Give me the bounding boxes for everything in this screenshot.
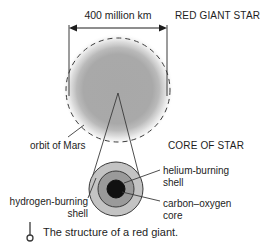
helium-burning-shell-label-line1: helium-burning (163, 165, 229, 177)
red-giant-star-disc (62, 33, 174, 145)
caption-marker-icon (27, 222, 33, 241)
core-of-star-label: CORE OF STAR (168, 140, 244, 152)
carbon-oxygen-core-label-line2: core (163, 210, 231, 222)
diameter-label: 400 million km (70, 9, 166, 21)
core-cross-section (89, 162, 143, 216)
figure-caption: The structure of a red giant. (43, 226, 178, 239)
red-giant-star-label: RED GIANT STAR (175, 10, 260, 22)
helium-burning-shell-label: helium-burning shell (163, 165, 229, 189)
red-giant-structure-figure: 400 million km RED GIANT STAR orbit of M… (0, 0, 260, 245)
carbon-oxygen-core-label-line1: carbon–oxygen (163, 198, 231, 210)
carbon-oxygen-core-label: carbon–oxygen core (163, 198, 231, 222)
orbit-of-mars-label: orbit of Mars (30, 140, 86, 152)
carbon-oxygen-core-circle (107, 180, 125, 198)
helium-burning-shell-label-line2: shell (163, 177, 229, 189)
hydrogen-burning-shell-label: hydrogen-burning shell (2, 196, 88, 220)
